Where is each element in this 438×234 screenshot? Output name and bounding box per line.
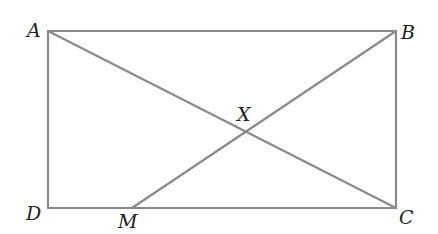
label-a: A <box>25 19 41 41</box>
label-d: D <box>25 202 41 224</box>
label-m: M <box>117 210 138 232</box>
geometry-diagram: A B C D M X <box>0 0 438 234</box>
label-c: C <box>399 206 414 228</box>
diagonal-ac <box>48 31 396 208</box>
segment-bm <box>132 31 396 208</box>
label-b: B <box>400 21 415 43</box>
label-x: X <box>235 103 252 125</box>
